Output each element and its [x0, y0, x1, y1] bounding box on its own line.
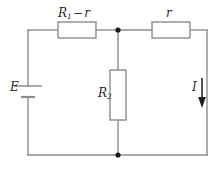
- resistor-top-left-subscript: 1: [67, 12, 72, 21]
- resistor-top-left-symbol: R: [58, 6, 67, 20]
- resistor-top-left-operator: −: [73, 6, 83, 20]
- current-arrow-head: [198, 97, 206, 108]
- resistor-middle-body: [110, 70, 126, 120]
- resistor-top-right-label: r: [166, 7, 172, 19]
- resistor-middle-label: R2: [98, 87, 112, 99]
- current-arrow-icon: [198, 78, 206, 108]
- circuit-schematic-svg: [0, 0, 222, 170]
- junction-top-middle-dot: [115, 27, 120, 32]
- resistor-top-left-operand: r: [84, 6, 90, 20]
- junction-bottom-middle-dot: [115, 152, 120, 157]
- resistor-top-left-body: [58, 22, 96, 38]
- circuit-diagram-figure: R1 − r r R2 E I: [0, 0, 222, 170]
- resistor-middle-symbol: R: [98, 86, 107, 100]
- resistor-top-left-label: R1 − r: [58, 7, 90, 19]
- resistor-top-right-body: [152, 22, 190, 38]
- resistor-middle-subscript: 2: [107, 92, 112, 101]
- voltage-source-label: E: [10, 81, 19, 93]
- current-label: I: [192, 81, 197, 93]
